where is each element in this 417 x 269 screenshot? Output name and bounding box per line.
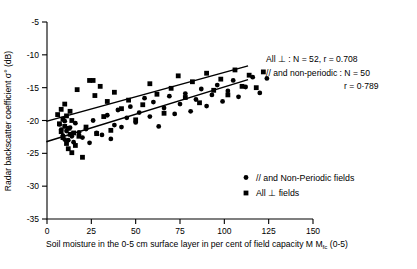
data-point xyxy=(66,138,71,143)
data-point xyxy=(167,94,172,99)
data-point xyxy=(116,108,121,113)
data-point xyxy=(105,113,110,118)
y-tick-label: -35 xyxy=(27,214,40,224)
x-axis-ticks: 0255075100125150 xyxy=(45,219,321,236)
data-point xyxy=(147,81,152,86)
x-tick-label: 50 xyxy=(131,226,141,236)
y-tick-label: -25 xyxy=(27,148,40,158)
data-point xyxy=(156,124,161,129)
annotation-parallel-r: r = 0·789 xyxy=(344,81,379,91)
y-tick-label: -20 xyxy=(27,116,40,126)
y-tick-label: -30 xyxy=(27,181,40,191)
data-point xyxy=(71,140,76,145)
legend-marker-circle-icon xyxy=(244,175,249,180)
data-point xyxy=(254,85,259,90)
x-axis-title: Soil moisture in the 0-5 cm surface laye… xyxy=(46,239,348,250)
data-point xyxy=(225,89,230,94)
data-point xyxy=(112,123,117,128)
data-point xyxy=(108,128,113,133)
data-point xyxy=(69,150,74,155)
data-point xyxy=(68,125,73,130)
annotation-perpendicular: All ⊥ : N = 52, r = 0.708 xyxy=(266,54,358,64)
data-point xyxy=(94,131,99,136)
data-point xyxy=(59,127,64,132)
data-point xyxy=(176,73,181,78)
data-point xyxy=(108,136,113,141)
data-point xyxy=(197,100,202,105)
x-tick-label: 25 xyxy=(87,226,97,236)
legend: // and Non-Periodic fields All ⊥ fields xyxy=(244,173,355,198)
data-point xyxy=(68,109,73,114)
data-point xyxy=(147,114,152,119)
data-point xyxy=(73,121,78,126)
data-point xyxy=(199,87,204,92)
data-point xyxy=(218,77,223,82)
data-point xyxy=(98,84,103,89)
data-point xyxy=(119,125,124,130)
data-point xyxy=(257,91,262,96)
data-point xyxy=(59,107,64,112)
data-point xyxy=(172,112,177,117)
x-tick-label: 150 xyxy=(306,226,320,236)
data-point xyxy=(140,102,145,107)
data-point xyxy=(55,112,60,117)
data-point xyxy=(133,120,138,125)
data-point xyxy=(142,96,147,101)
data-point xyxy=(91,78,96,83)
legend-marker-square-icon xyxy=(244,191,249,196)
data-point xyxy=(204,104,209,109)
data-point xyxy=(128,104,133,109)
data-point xyxy=(80,155,85,160)
data-point xyxy=(64,129,69,134)
y-axis-title: Radar backscatter coefficient σ° (dB) xyxy=(3,51,13,192)
data-point xyxy=(112,90,117,95)
legend-label-parallel: // and Non-Periodic fields xyxy=(256,173,355,183)
data-point xyxy=(62,102,67,107)
data-point xyxy=(151,100,156,105)
data-point xyxy=(80,135,85,140)
data-point xyxy=(92,93,97,98)
data-point xyxy=(75,87,80,92)
annotation-parallel: // and non-periodic : N = 50 xyxy=(266,68,370,78)
data-point xyxy=(62,119,67,124)
data-point xyxy=(178,102,183,107)
data-point xyxy=(57,122,62,127)
y-axis-ticks: -5-10-15-20-25-30-35 xyxy=(27,17,47,224)
data-point xyxy=(220,99,225,104)
data-point xyxy=(194,97,199,102)
figure-container: -5-10-15-20-25-30-35 0255075100125150 Ra… xyxy=(0,0,417,269)
data-point xyxy=(91,118,96,123)
data-point xyxy=(183,91,188,96)
y-tick-label: -10 xyxy=(27,50,40,60)
data-point xyxy=(231,78,236,83)
scatter-plot: -5-10-15-20-25-30-35 0255075100125150 Ra… xyxy=(0,0,417,269)
data-point xyxy=(236,94,241,99)
data-point xyxy=(210,92,215,97)
data-point xyxy=(243,85,248,90)
regression-lines xyxy=(47,66,247,142)
data-point xyxy=(215,83,220,88)
y-tick-label: -15 xyxy=(27,83,40,93)
legend-label-perpendicular: All ⊥ fields xyxy=(256,188,300,198)
data-point xyxy=(100,133,105,138)
data-point xyxy=(250,75,255,80)
data-point xyxy=(105,99,110,104)
data-point xyxy=(162,111,167,116)
x-tick-label: 125 xyxy=(262,226,276,236)
x-tick-label: 0 xyxy=(45,226,50,236)
data-point xyxy=(155,92,160,97)
x-tick-label: 75 xyxy=(175,226,185,236)
data-point xyxy=(188,109,193,114)
data-point xyxy=(204,71,209,76)
y-tick-label: -5 xyxy=(31,17,39,27)
regression-line xyxy=(47,66,247,121)
data-point xyxy=(87,140,92,145)
x-tick-label: 100 xyxy=(217,226,231,236)
